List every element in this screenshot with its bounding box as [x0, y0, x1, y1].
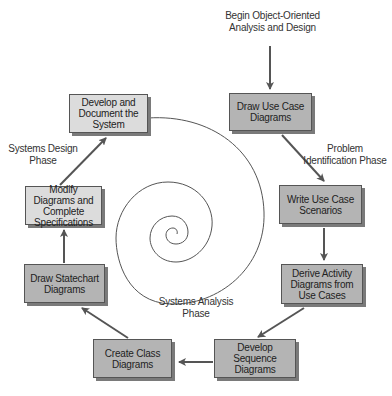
- box-draw-use-case: Draw Use Case Diagrams: [229, 93, 312, 131]
- box-draw-statechart: Draw Statechart Diagrams: [24, 264, 105, 303]
- arrow-3: [258, 308, 304, 337]
- box-derive-activity: Derive Activity Diagrams from Use Cases: [281, 264, 363, 304]
- start-label: Begin Object-Oriented Analysis and Desig…: [225, 10, 320, 34]
- box-develop-sequence: Develop Sequence Diagrams: [214, 339, 296, 378]
- spiral-graphic: [116, 118, 264, 304]
- box-modify-diagrams: Modify Diagrams and Complete Specificati…: [25, 186, 102, 225]
- phase-systems-analysis: Systems Analysis Phase: [158, 296, 234, 320]
- arrow-5: [82, 308, 128, 338]
- phase-problem-identification: Problem Identification Phase: [300, 143, 390, 167]
- phase-systems-design: Systems Design Phase: [8, 143, 78, 167]
- box-develop-document: Develop and Document the System: [69, 94, 148, 133]
- box-write-scenarios: Write Use Case Scenarios: [279, 185, 362, 224]
- box-create-class: Create Class Diagrams: [93, 339, 172, 378]
